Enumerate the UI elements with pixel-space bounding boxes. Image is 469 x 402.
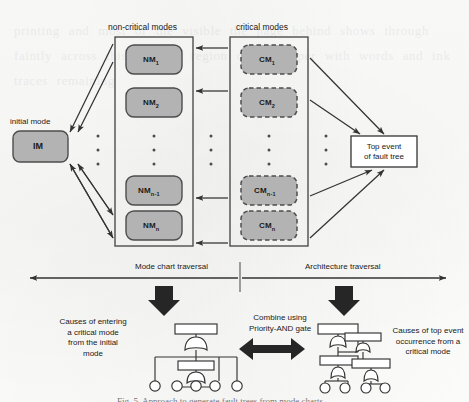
figure-canvas: printing and most of the visible the pag… <box>0 0 469 402</box>
critical-modes-title: critical modes <box>236 22 288 32</box>
initial-mode-node-label: IM <box>33 141 43 152</box>
right-description-line-2: occurrence from a <box>386 337 469 348</box>
node-sub-nm-1: 1 <box>156 60 159 66</box>
node-sub-cm-2: 2 <box>272 103 275 109</box>
stroke-mask <box>72 166 76 174</box>
architecture-traversal-label: Architecture traversal <box>305 262 381 271</box>
node-label-nm-n: NMn <box>143 221 159 232</box>
figure-caption: Fig. 5. Approach to generate fault trees… <box>60 396 380 402</box>
node-label-cm-2: CM2 <box>259 98 275 109</box>
node-label-cm-n: CMn <box>259 221 275 232</box>
node-base-cm-n-1: CM <box>254 186 267 195</box>
node-sub-cm-n-1: n-1 <box>267 191 276 197</box>
noncritical-mode-nodes <box>126 45 182 240</box>
left-description-line-2: a critical mode <box>38 328 148 339</box>
initial-mode-title: initial mode <box>10 117 50 126</box>
node-sub-cm-1: 1 <box>272 60 275 66</box>
node-label-nm-2: NM2 <box>143 98 159 109</box>
noncritical-modes-title: non-critical modes <box>108 22 177 32</box>
down-arrow-left <box>148 286 180 316</box>
node-base-cm-2: CM <box>259 98 272 107</box>
combine-label: Combine using Priority-AND gate <box>237 313 323 334</box>
ellipsis-dots <box>97 135 328 166</box>
node-base-nm-n-1: NM <box>138 186 151 195</box>
node-base-cm-n: CM <box>259 221 272 230</box>
combine-label-line-2: Priority-AND gate <box>237 324 323 335</box>
node-base-cm-1: CM <box>259 55 272 64</box>
left-description-line-1: Causes of entering <box>38 317 148 328</box>
fault-tree-right <box>318 324 390 393</box>
right-description-line-3: critical mode <box>386 347 469 358</box>
arrows-noncritical-to-initial-lower <box>70 164 113 238</box>
node-sub-nm-n-1: n-1 <box>151 191 160 197</box>
traversal-axis <box>30 262 446 292</box>
right-description-line-1: Causes of top event <box>386 326 469 337</box>
arrows-critical-to-noncritical <box>196 48 228 243</box>
node-base-nm-1: NM <box>143 55 156 64</box>
node-label-cm-n-1: CMn-1 <box>254 186 276 197</box>
down-arrow-right <box>328 286 360 316</box>
node-label-nm-1: NM1 <box>143 55 159 66</box>
combine-double-arrow <box>239 338 305 360</box>
left-description: Causes of entering a critical mode from … <box>38 317 148 359</box>
left-description-line-3: from the initial <box>38 338 148 349</box>
node-label-nm-n-1: NMn-1 <box>138 186 160 197</box>
node-base-nm-n: NM <box>143 221 156 230</box>
mode-chart-traversal-label: Mode chart traversal <box>135 262 208 271</box>
right-description: Causes of top event occurrence from a cr… <box>386 326 469 358</box>
combine-label-line-1: Combine using <box>237 313 323 324</box>
node-base-nm-2: NM <box>143 98 156 107</box>
top-event-line-2: of fault tree <box>355 152 413 162</box>
top-event-line-1: Top event <box>355 142 413 152</box>
arrows-noncritical-to-initial <box>70 44 113 238</box>
node-sub-nm-2: 2 <box>156 103 159 109</box>
node-sub-cm-n: n <box>272 226 276 232</box>
fault-tree-left <box>150 324 242 391</box>
node-sub-nm-n: n <box>156 226 160 232</box>
left-description-line-4: mode <box>38 349 148 360</box>
node-label-cm-1: CM1 <box>259 55 275 66</box>
top-event-label: Top event of fault tree <box>355 142 413 162</box>
critical-mode-nodes <box>241 45 297 240</box>
